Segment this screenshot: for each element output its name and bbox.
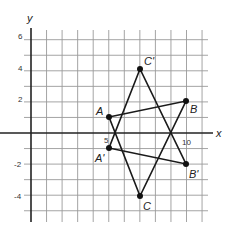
y-tick-6: 6 [18, 32, 23, 41]
y-tick-neg2: -2 [14, 160, 22, 169]
x-tick-10: 10 [182, 138, 191, 147]
label-a-prime: A' [94, 152, 105, 164]
label-c: C [143, 200, 151, 212]
point-b-prime [183, 161, 189, 167]
label-b: B [190, 103, 197, 115]
coordinate-plane: y x 6 4 2 -2 -4 5 10 A B C' A' B' C [0, 0, 231, 231]
point-a-prime [106, 145, 112, 151]
x-tick-5: 5 [104, 136, 109, 145]
point-b [183, 98, 189, 104]
y-tick-neg4: -4 [14, 192, 22, 201]
y-tick-2: 2 [18, 95, 23, 104]
label-b-prime: B' [189, 168, 199, 180]
point-c [137, 193, 143, 199]
point-a [106, 114, 112, 120]
y-tick-4: 4 [18, 64, 23, 73]
point-c-prime [137, 66, 143, 72]
grid-lines [24, 30, 208, 222]
label-a: A [95, 105, 103, 117]
triangle-a-prime-b-prime-c-prime [109, 69, 186, 164]
label-c-prime: C' [144, 55, 155, 67]
y-axis-label: y [26, 12, 34, 24]
x-axis-label: x [215, 127, 222, 139]
